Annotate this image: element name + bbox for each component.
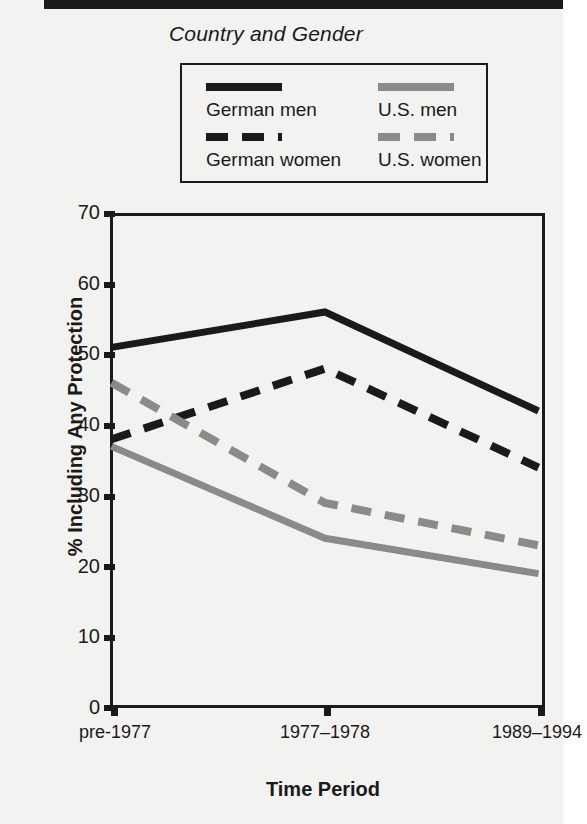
y-tick-label-40: 40 [40, 413, 100, 436]
x-tick-mark-pre-1977 [111, 705, 118, 716]
y-tick-label-10: 10 [40, 625, 100, 648]
y-tick-label-30: 30 [40, 484, 100, 507]
y-tick-mark-50 [104, 352, 115, 358]
legend-title: Country and Gender [169, 22, 489, 46]
legend-label-us-men: U.S. men [378, 99, 457, 121]
y-tick-mark-20 [104, 564, 115, 570]
legend-label-german-men: German men [206, 99, 317, 121]
y-tick-mark-60 [104, 282, 115, 288]
legend-entry-us-men: U.S. men [378, 83, 457, 121]
y-tick-label-20: 20 [40, 555, 100, 578]
legend-entry-german-women: German women [206, 133, 341, 171]
plot-area [110, 213, 545, 708]
y-tick-mark-70 [104, 211, 115, 217]
top-rule-divider [44, 0, 563, 9]
legend-label-german-women: German women [206, 149, 341, 171]
legend-swatch-us-women [378, 133, 454, 141]
y-tick-label-0: 0 [40, 696, 100, 719]
legend-swatch-us-men [378, 83, 454, 91]
y-tick-mark-40 [104, 423, 115, 429]
x-tick-label-1977-1978: 1977–1978 [258, 722, 392, 743]
legend-entry-us-women: U.S. women [378, 133, 481, 171]
x-tick-label-pre-1977: pre-1977 [58, 722, 172, 743]
y-tick-label-60: 60 [40, 272, 100, 295]
legend-swatch-german-women [206, 133, 282, 141]
legend-box: German men U.S. men German women U.S. wo… [180, 63, 488, 183]
x-tick-label-1989-1994: 1989–1994 [470, 722, 587, 743]
legend-swatch-german-men [206, 83, 282, 91]
y-tick-label-70: 70 [40, 201, 100, 224]
x-tick-mark-1989-1994 [538, 705, 545, 716]
legend-entry-german-men: German men [206, 83, 317, 121]
y-tick-label-50: 50 [40, 342, 100, 365]
legend-label-us-women: U.S. women [378, 149, 481, 171]
y-tick-mark-30 [104, 494, 115, 500]
y-tick-mark-10 [104, 635, 115, 641]
x-axis-title: Time Period [100, 778, 546, 801]
x-tick-mark-1977-1978 [324, 705, 331, 716]
